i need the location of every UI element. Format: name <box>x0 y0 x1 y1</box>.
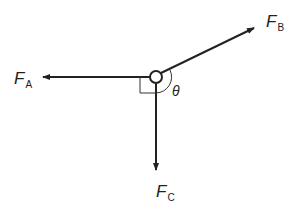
force-b-label: FB <box>266 12 284 33</box>
theta-label: θ <box>172 83 180 99</box>
force-b-arrow <box>161 28 254 73</box>
particle-point <box>150 71 162 83</box>
force-a-label: FA <box>14 69 32 90</box>
force-c-label: FC <box>156 182 175 203</box>
force-diagram: FA FB FC θ <box>0 0 289 216</box>
